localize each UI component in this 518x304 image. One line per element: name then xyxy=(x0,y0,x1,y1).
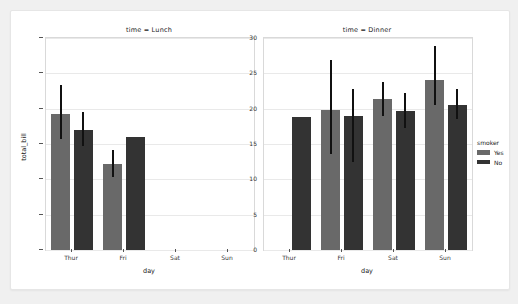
error-bar xyxy=(82,112,83,146)
error-bar xyxy=(404,93,405,128)
seaborn-catplot-figure: total_bill time = Lunch time = Dinner da… xyxy=(11,11,509,289)
facet-title-lunch: time = Lunch xyxy=(45,26,253,34)
x-tick-label: Sat xyxy=(152,254,198,261)
x-tick-label: Sun xyxy=(204,254,250,261)
y-axis-label: total_bill xyxy=(20,102,28,192)
bar-lunch-fri-no xyxy=(126,137,145,250)
gridline xyxy=(264,250,472,251)
y-tick-mark xyxy=(39,143,43,144)
y-tick-label: 25 xyxy=(235,69,257,76)
legend-label-no: No xyxy=(494,159,502,166)
error-bar xyxy=(60,85,61,139)
y-tick-label: 10 xyxy=(235,175,257,182)
plot-panel-lunch xyxy=(45,37,255,251)
error-bar xyxy=(112,150,113,178)
legend-label-yes: Yes xyxy=(494,149,504,156)
y-tick-mark xyxy=(39,108,43,109)
error-bar xyxy=(434,46,435,105)
legend-item-no: No xyxy=(477,159,518,166)
y-tick-mark xyxy=(39,72,43,73)
x-tick-mark xyxy=(341,249,342,252)
error-bar xyxy=(330,60,331,154)
figure-card: total_bill time = Lunch time = Dinner da… xyxy=(10,10,510,290)
x-tick-label: Sat xyxy=(370,254,416,261)
error-bar xyxy=(352,89,353,162)
y-tick-mark xyxy=(39,249,43,250)
y-tick-mark xyxy=(39,214,43,215)
x-tick-mark xyxy=(227,249,228,252)
x-axis-label-lunch: day xyxy=(45,267,253,275)
legend-title: smoker xyxy=(477,139,518,146)
bar-dinner-sun-no xyxy=(448,105,467,250)
y-tick-label: 30 xyxy=(235,34,257,41)
gridline xyxy=(264,38,472,39)
x-tick-mark xyxy=(393,249,394,252)
legend-item-yes: Yes xyxy=(477,149,518,156)
gridline xyxy=(46,250,254,251)
facet-title-dinner: time = Dinner xyxy=(263,26,471,34)
gridline xyxy=(46,38,254,39)
x-tick-mark xyxy=(123,249,124,252)
gridline xyxy=(46,109,254,110)
error-bar xyxy=(382,82,383,116)
x-tick-label: Sun xyxy=(422,254,468,261)
y-tick-mark xyxy=(39,178,43,179)
x-tick-label: Thur xyxy=(48,254,94,261)
x-tick-mark xyxy=(175,249,176,252)
legend-swatch-no xyxy=(477,160,490,165)
gridline xyxy=(46,73,254,74)
y-tick-mark xyxy=(39,37,43,38)
bar-lunch-thur-no xyxy=(74,130,93,250)
x-tick-mark xyxy=(445,249,446,252)
page-root: total_bill time = Lunch time = Dinner da… xyxy=(0,0,518,304)
bar-dinner-sun-yes xyxy=(425,80,444,250)
x-tick-label: Fri xyxy=(318,254,364,261)
y-tick-label: 15 xyxy=(235,140,257,147)
x-tick-mark xyxy=(289,249,290,252)
bar-dinner-sat-no xyxy=(396,111,415,250)
x-tick-label: Thur xyxy=(266,254,312,261)
bar-dinner-thur-no xyxy=(292,117,311,250)
y-tick-label: 5 xyxy=(235,210,257,217)
x-tick-label: Fri xyxy=(100,254,146,261)
plot-panel-dinner xyxy=(263,37,473,251)
error-bar xyxy=(456,89,457,119)
x-axis-label-dinner: day xyxy=(263,267,471,275)
legend-swatch-yes xyxy=(477,150,490,155)
bar-dinner-sat-yes xyxy=(373,99,392,250)
y-tick-label: 20 xyxy=(235,104,257,111)
x-tick-mark xyxy=(71,249,72,252)
legend: smoker Yes No xyxy=(477,139,518,168)
y-tick-label: 0 xyxy=(235,246,257,253)
gridline xyxy=(264,73,472,74)
